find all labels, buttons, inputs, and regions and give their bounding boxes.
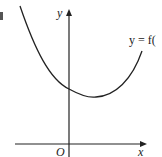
origin-label: O bbox=[56, 145, 65, 157]
corner-marker bbox=[0, 12, 3, 20]
curve-label: y = f( bbox=[129, 33, 156, 47]
graph-diagram: y x O y = f( bbox=[0, 0, 162, 157]
curve-y-equals-f-x bbox=[20, 6, 142, 97]
y-axis-label: y bbox=[56, 6, 63, 20]
y-axis-arrow-icon bbox=[66, 9, 72, 16]
x-axis-label: x bbox=[137, 145, 144, 157]
graph-svg: y x O y = f( bbox=[0, 0, 162, 157]
